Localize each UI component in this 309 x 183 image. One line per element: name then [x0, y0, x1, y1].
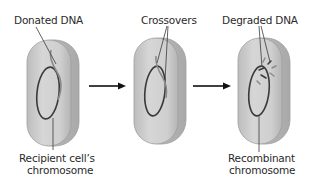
right-arrow-icon: [89, 83, 126, 90]
bacterial-recombination-diagram: Donated DNA Recipient cell’s chromosome …: [0, 0, 309, 183]
label-recipient-chromosome-line1: Recipient cell’s: [19, 152, 95, 164]
label-recombinant-chromosome-line2: chromosome: [229, 164, 295, 176]
label-degraded-dna: Degraded DNA: [222, 14, 298, 26]
label-donated-dna: Donated DNA: [14, 14, 83, 26]
cell-crossover: [134, 26, 186, 144]
label-recipient-chromosome-line2: chromosome: [27, 164, 93, 176]
cell-recombinant: [238, 26, 290, 152]
label-recombinant-chromosome-line1: Recombinant: [228, 152, 295, 164]
right-arrow-icon: [193, 83, 231, 90]
cell-recipient: [27, 27, 79, 150]
label-crossovers: Crossovers: [141, 14, 197, 26]
